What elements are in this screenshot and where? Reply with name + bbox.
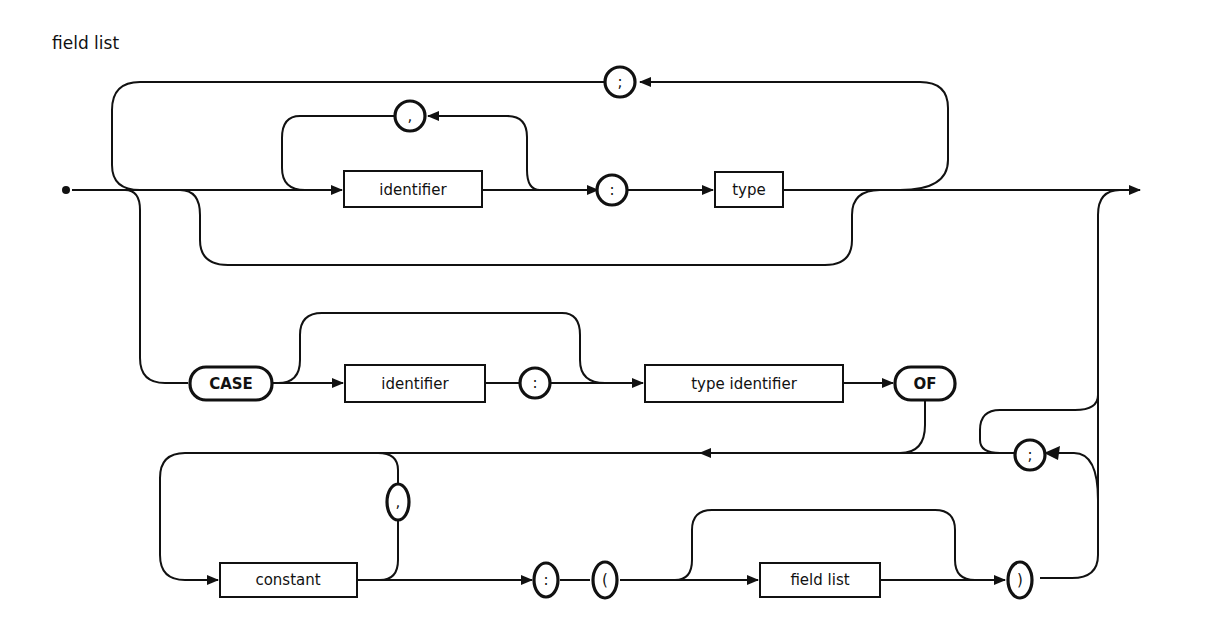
svg-text:CASE: CASE <box>209 375 253 393</box>
start-dot-icon <box>62 186 70 194</box>
svg-text:OF: OF <box>914 375 937 393</box>
semicolon-separator-variant: ; <box>1015 440 1045 470</box>
svg-text::: : <box>609 181 614 199</box>
close-paren: ) <box>1008 562 1032 598</box>
colon-case: : <box>520 368 550 398</box>
svg-text:): ) <box>1017 571 1023 589</box>
type-box: type <box>715 172 783 207</box>
semicolon-separator-top: ; <box>605 67 635 97</box>
comma-separator-constant: , <box>387 484 409 520</box>
syntax-diagram: ; , identifier : type CASE identifier : … <box>0 0 1210 633</box>
svg-text:type: type <box>732 181 766 199</box>
open-paren: ( <box>593 562 617 598</box>
constant-box: constant <box>220 563 357 597</box>
colon-variant: : <box>534 563 558 597</box>
svg-text:type identifier: type identifier <box>691 375 797 393</box>
identifier-box-top: identifier <box>344 171 482 207</box>
case-keyword: CASE <box>190 367 272 400</box>
svg-text::: : <box>543 571 548 589</box>
field-list-box: field list <box>760 563 880 597</box>
svg-text::: : <box>532 374 537 392</box>
type-identifier-box: type identifier <box>645 365 843 402</box>
identifier-box-case: identifier <box>345 365 485 402</box>
svg-text:constant: constant <box>255 571 320 589</box>
of-keyword: OF <box>895 367 955 400</box>
svg-text:identifier: identifier <box>379 181 447 199</box>
svg-text:;: ; <box>617 73 622 91</box>
svg-text:;: ; <box>1027 446 1032 464</box>
svg-text:,: , <box>396 493 401 511</box>
svg-text:identifier: identifier <box>381 375 449 393</box>
colon-top: : <box>597 175 627 205</box>
svg-text:(: ( <box>602 571 608 589</box>
svg-text:field list: field list <box>790 571 849 589</box>
comma-separator-top: , <box>395 101 425 131</box>
svg-text:,: , <box>408 107 413 125</box>
